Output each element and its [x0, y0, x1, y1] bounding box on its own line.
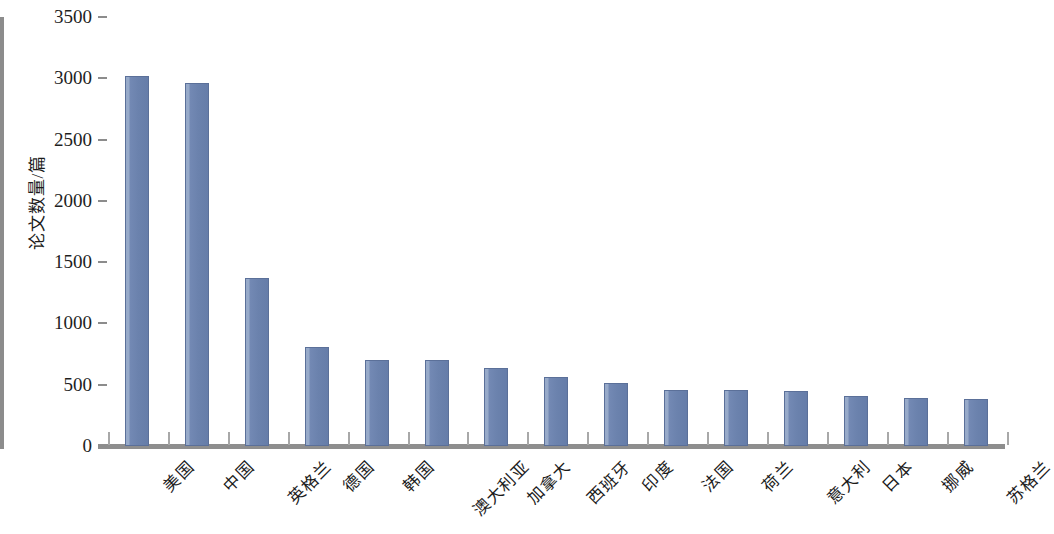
x-tick-label: 英格兰 [285, 458, 334, 507]
bar [305, 347, 329, 446]
bar [245, 278, 269, 446]
bar [365, 360, 389, 446]
x-tick-label: 德国 [340, 458, 377, 495]
bar [544, 377, 568, 446]
bar [484, 368, 508, 446]
bar [844, 396, 868, 446]
x-tick-label: 西班牙 [585, 458, 634, 507]
bar [185, 83, 209, 446]
x-tick-label: 苏格兰 [1004, 458, 1053, 507]
x-tick-label: 中国 [220, 458, 257, 495]
x-tick-label: 法国 [699, 458, 736, 495]
bar [904, 398, 928, 446]
bars-layer [0, 0, 1011, 446]
x-tick-label: 日本 [879, 458, 916, 495]
x-tick-label: 意大利 [824, 458, 873, 507]
bar [425, 360, 449, 446]
x-axis-labels: 美国中国英格兰德国韩国澳大利亚加拿大西班牙印度法国荷兰意大利日本挪威苏格兰 [0, 446, 1011, 534]
x-tick-label: 荷兰 [759, 458, 796, 495]
x-tick-label: 韩国 [400, 458, 437, 495]
x-tick-label: 挪威 [939, 458, 976, 495]
bar [784, 391, 808, 446]
bar [125, 76, 149, 446]
bar [664, 390, 688, 446]
bar [604, 383, 628, 446]
x-tick-label: 美国 [160, 458, 197, 495]
x-tick-label: 印度 [639, 458, 676, 495]
bar [724, 390, 748, 446]
bar [964, 399, 988, 446]
x-tick-label: 加拿大 [525, 458, 574, 507]
x-tick-label: 澳大利亚 [470, 458, 532, 520]
